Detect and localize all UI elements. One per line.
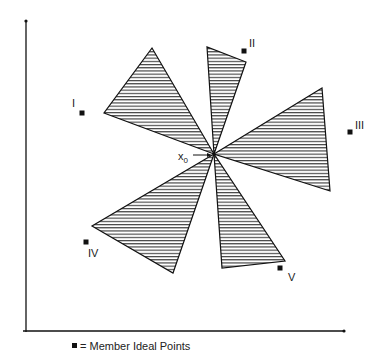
- legend: = Member Ideal Points: [72, 340, 190, 352]
- petal-IV: [92, 154, 214, 273]
- spatial-voting-diagram: IIIIIIIVV x0: [0, 0, 381, 364]
- square-marker-icon: [72, 343, 77, 348]
- ideal-point-marker: [348, 130, 353, 135]
- ideal-point-label: II: [249, 37, 255, 49]
- center-label: x0: [178, 150, 189, 165]
- ideal-point-label: I: [72, 97, 75, 109]
- legend-text: = Member Ideal Points: [80, 340, 190, 352]
- win-set-petals: [92, 47, 330, 273]
- y-axis-arrow: [24, 19, 27, 22]
- ideal-point-marker: [80, 111, 85, 116]
- ideal-point-label: IV: [88, 247, 99, 259]
- ideal-point-label: V: [288, 271, 296, 283]
- ideal-point-marker: [242, 49, 247, 54]
- ideal-point-label: III: [355, 119, 364, 131]
- x-axis-arrow: [342, 329, 345, 332]
- petal-I: [104, 48, 214, 154]
- ideal-point-marker: [278, 266, 283, 271]
- ideal-point-marker: [84, 240, 89, 245]
